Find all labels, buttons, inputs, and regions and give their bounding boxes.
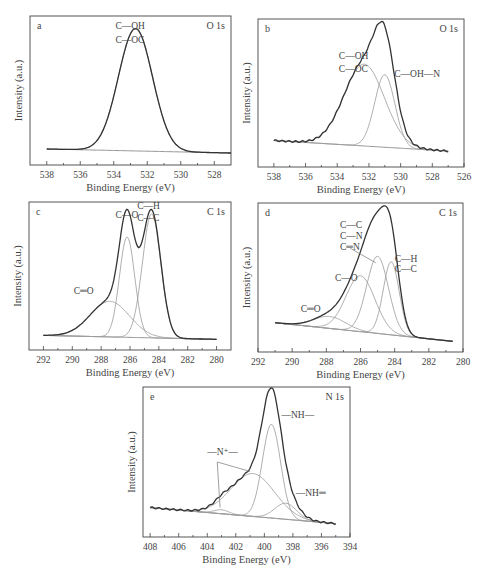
peak-assignment-label: C—OH [339, 51, 369, 61]
fitted-component-peak [47, 29, 231, 153]
peak-assignment-label: C—O [335, 273, 358, 283]
x-tick-label: 396 [314, 542, 329, 552]
measured-spectrum [47, 29, 231, 153]
x-tick-label: 538 [40, 170, 55, 180]
fitted-component-peak [43, 237, 216, 339]
x-tick-label: 404 [200, 542, 215, 552]
x-tick-label: 400 [257, 542, 272, 552]
measured-spectrum [274, 22, 448, 152]
core-level-label: N 1s [325, 391, 344, 402]
x-tick-label: 530 [393, 172, 408, 182]
x-axis-label: Binding Energy (eV) [317, 184, 406, 196]
x-tick-label: 282 [181, 355, 196, 365]
x-tick-label: 280 [456, 357, 471, 367]
x-tick-label: 534 [107, 170, 122, 180]
peak-assignment-label: C—H [395, 254, 418, 264]
panel-d: 292290288286284282280Binding Energy (eV)… [241, 203, 470, 381]
core-level-label: O 1s [206, 20, 225, 31]
core-level-label: C 1s [439, 207, 457, 218]
peak-assignment-label: C—C [395, 264, 417, 274]
fitted-component-peak [275, 316, 453, 341]
x-tick-label: 290 [285, 357, 300, 367]
x-tick-label: 286 [353, 357, 368, 367]
peak-assignment-label: C—C [340, 220, 362, 230]
y-axis-label: Intensity (a.u.) [241, 246, 253, 308]
x-tick-label: 532 [140, 170, 155, 180]
peak-assignment-label: C—O [116, 210, 139, 220]
panel-c: 292290288286284282280Binding Energy (eV)… [12, 201, 231, 379]
annotation-leader-line [217, 462, 250, 471]
fitted-component-peak [150, 474, 336, 524]
x-tick-label: 284 [152, 355, 167, 365]
x-tick-label: 288 [319, 357, 334, 367]
panel-e: 408406404402400398396394Binding Energy (… [126, 387, 357, 566]
x-tick-label: 292 [251, 357, 266, 367]
y-axis-label: Intensity (a.u.) [126, 431, 138, 493]
peak-assignment-label: C—H [137, 201, 160, 211]
peak-assignment-label: C═O [301, 304, 321, 314]
fitted-component-peak [274, 75, 448, 151]
xps-figure: 538536534532530528Binding Energy (eV)Int… [0, 0, 477, 574]
fitted-component-peak [275, 262, 453, 341]
x-tick-label: 292 [36, 355, 51, 365]
panel-letter: c [36, 206, 41, 217]
x-tick-label: 534 [330, 172, 345, 182]
x-tick-label: 528 [207, 170, 222, 180]
x-axis-label: Binding Energy (eV) [86, 367, 175, 379]
x-tick-label: 536 [298, 172, 313, 182]
panel-letter: e [150, 391, 155, 402]
x-tick-label: 394 [343, 542, 358, 552]
x-tick-label: 538 [267, 172, 282, 182]
x-tick-label: 398 [286, 542, 301, 552]
x-tick-label: 402 [229, 542, 244, 552]
peak-assignment-label: —NH— [280, 410, 314, 420]
peak-assignment-label: C—OC [115, 35, 144, 45]
peak-assignment-label: C═O [74, 286, 94, 296]
peak-assignment-label: —N⁺— [206, 447, 238, 457]
panel-a: 538536534532530528Binding Energy (eV)Int… [13, 16, 231, 194]
panel-letter: a [37, 20, 42, 31]
x-tick-label: 536 [73, 170, 88, 180]
x-axis-label: Binding Energy (eV) [316, 369, 405, 381]
peak-assignment-label: C—C [137, 213, 159, 223]
x-tick-label: 526 [457, 172, 472, 182]
core-level-label: O 1s [439, 23, 458, 34]
plot-frame [143, 387, 350, 537]
peak-assignment-label: C—OH—N [394, 69, 440, 79]
x-tick-label: 530 [174, 170, 189, 180]
peak-assignment-label: C—OC [339, 64, 368, 74]
x-tick-label: 532 [362, 172, 377, 182]
x-tick-label: 288 [94, 355, 109, 365]
measured-spectrum [150, 388, 336, 524]
fitted-component-peak [43, 214, 216, 340]
y-axis-label: Intensity (a.u.) [13, 59, 25, 121]
x-tick-label: 286 [123, 355, 138, 365]
plot-frame [258, 19, 464, 167]
peak-assignment-label: —NH═ [295, 488, 326, 498]
peak-assignment-label: C—OH [115, 21, 145, 31]
x-tick-label: 406 [172, 542, 187, 552]
fitted-component-peak [150, 424, 336, 523]
panel-letter: d [265, 207, 270, 218]
y-axis-label: Intensity (a.u.) [241, 62, 253, 124]
measured-spectrum [43, 209, 216, 339]
x-axis-label: Binding Energy (eV) [202, 554, 291, 566]
x-tick-label: 408 [143, 542, 158, 552]
peak-assignment-label: C═N [340, 242, 360, 252]
fitted-component-peak [43, 301, 216, 339]
x-tick-label: 282 [422, 357, 437, 367]
peak-assignment-label: C—N [340, 231, 363, 241]
x-tick-label: 284 [388, 357, 403, 367]
fitted-component-peak [150, 503, 336, 523]
x-tick-label: 528 [425, 172, 440, 182]
panel-b: 538536534532530528526Binding Energy (eV)… [241, 19, 471, 196]
fitted-component-peak [275, 256, 453, 341]
x-tick-label: 290 [65, 355, 80, 365]
panel-letter: b [265, 23, 270, 34]
measured-spectrum [275, 206, 453, 341]
core-level-label: C 1s [207, 206, 225, 217]
y-axis-label: Intensity (a.u.) [12, 245, 24, 307]
x-tick-label: 280 [209, 355, 224, 365]
plot-frame [29, 202, 231, 350]
x-axis-label: Binding Energy (eV) [86, 182, 175, 194]
